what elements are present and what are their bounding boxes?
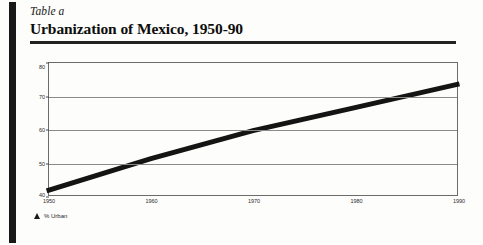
x-axis-tick-label: 1960 xyxy=(145,198,157,204)
x-axis-tick-label: 1990 xyxy=(453,198,465,204)
page-title: Urbanization of Mexico, 1950-90 xyxy=(30,19,456,38)
gridline-y-50 xyxy=(49,164,457,165)
gridline-y-60 xyxy=(49,130,457,131)
x-axis-tick-label: 1970 xyxy=(248,198,260,204)
x-axis-tick-label: 1950 xyxy=(43,198,55,204)
y-axis-tick-label: 60 xyxy=(39,127,45,133)
chart-plot-area: 405060708019501960197019801990 xyxy=(48,62,458,196)
triangle-marker-icon xyxy=(34,213,40,219)
chart-legend: % Urban xyxy=(34,213,67,219)
line-series xyxy=(49,63,457,195)
table-label: Table a xyxy=(30,4,456,18)
y-axis-tick-label: 50 xyxy=(39,161,45,167)
x-axis-tick-label: 1980 xyxy=(350,198,362,204)
y-axis-tick-label: 70 xyxy=(39,94,45,100)
y-axis-tick-mark xyxy=(46,96,49,97)
y-axis-tick-mark xyxy=(46,163,49,164)
chart-header: Table a Urbanization of Mexico, 1950-90 xyxy=(30,4,456,44)
legend-item-label: % Urban xyxy=(44,213,67,219)
y-axis-tick-label: 80 xyxy=(39,64,45,70)
title-divider xyxy=(30,41,456,44)
y-axis-tick-mark xyxy=(46,130,49,131)
y-axis-tick-mark xyxy=(46,63,49,64)
page-margin-bar xyxy=(9,2,16,243)
series-line-percent-urban xyxy=(49,84,457,190)
gridline-y-70 xyxy=(49,97,457,98)
